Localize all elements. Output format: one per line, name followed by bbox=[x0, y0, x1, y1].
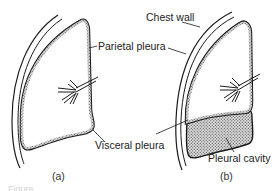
pleural-band-b bbox=[187, 23, 251, 122]
label-visceral-pleura: Visceral pleura bbox=[95, 139, 164, 151]
pleura-diagram: (a) (b) Chest wall Parietal pleura Visce… bbox=[0, 0, 278, 191]
panel-b-label: (b) bbox=[220, 170, 233, 182]
leader-visceral-b bbox=[156, 120, 188, 134]
figure-caption-fragment: Figure bbox=[8, 184, 34, 191]
label-parietal-pleura: Parietal pleura bbox=[98, 40, 166, 52]
label-chest-wall: Chest wall bbox=[146, 11, 194, 23]
panel-a: (a) bbox=[12, 15, 105, 182]
panel-a-label: (a) bbox=[52, 170, 65, 182]
leader-parietal-b bbox=[168, 48, 186, 54]
label-pleural-cavity: Pleural cavity bbox=[208, 152, 271, 164]
